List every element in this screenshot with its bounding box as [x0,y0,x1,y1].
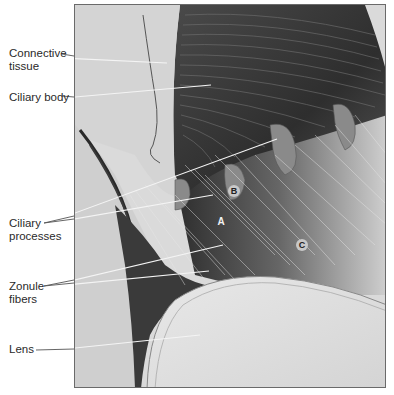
anatomical-illustration [75,5,386,388]
label-zonule-fibers: Zonule fibers [9,280,44,306]
marker-a: A [215,216,227,228]
label-lens: Lens [9,343,34,356]
label-ciliary-processes: Ciliary processes [9,217,61,243]
marker-b: B [228,185,240,197]
illustration-frame: B A C [74,4,386,388]
label-connective-tissue: Connective tissue [9,47,67,73]
marker-c: C [296,239,308,251]
label-ciliary-body: Ciliary body [9,91,69,104]
